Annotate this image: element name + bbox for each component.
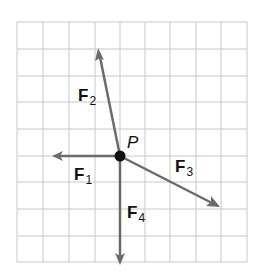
label-f3: F3 — [175, 158, 193, 178]
label-f2: F2 — [78, 87, 96, 107]
vector-f4 — [115, 156, 125, 265]
label-f4: F4 — [127, 204, 145, 224]
point-p-label: P — [127, 134, 138, 151]
label-f1: F1 — [74, 166, 92, 186]
point-p-dot — [115, 151, 126, 162]
vector-f1 — [52, 151, 120, 161]
